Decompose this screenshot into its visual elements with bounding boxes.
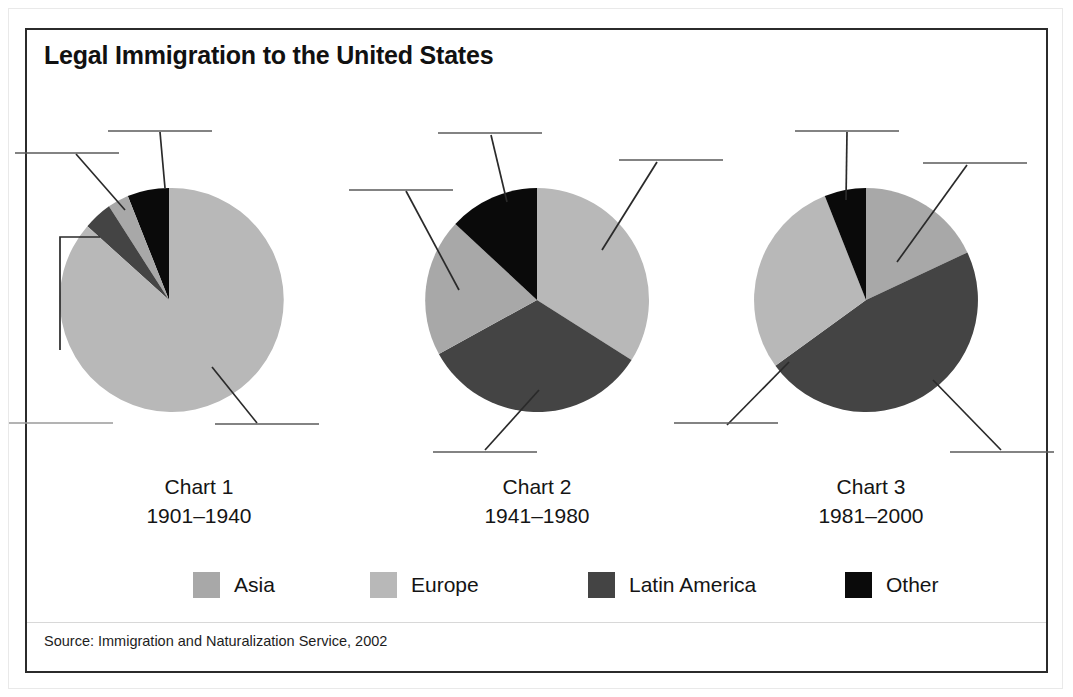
legend-swatch-other — [845, 572, 872, 598]
chart-1-caption-name: Chart 1 — [165, 475, 234, 498]
legend-swatch-asia — [193, 572, 220, 598]
chart-1-leader-other — [160, 132, 165, 188]
source-note: Source: Immigration and Naturalization S… — [44, 633, 387, 649]
chart-3-pie — [701, 110, 1041, 470]
chart-1-block — [29, 110, 369, 470]
chart-3-leader-other — [846, 132, 847, 200]
legend-item-other: Other — [845, 570, 939, 600]
chart-2-leader-other — [491, 135, 507, 202]
chart-3-leader-latin — [933, 380, 1001, 450]
source-divider — [27, 622, 1046, 623]
chart-2-leader-europe — [602, 162, 657, 250]
legend-item-europe: Europe — [370, 570, 479, 600]
chart-3-caption: Chart 3 1981–2000 — [701, 472, 1041, 530]
legend-swatch-latin-america — [588, 572, 615, 598]
chart-3-leader-europe — [727, 362, 789, 425]
chart-2-caption-name: Chart 2 — [503, 475, 572, 498]
charts-row — [25, 110, 1048, 470]
legend-label-asia: Asia — [234, 573, 275, 597]
chart-1-pie — [29, 110, 369, 470]
chart-1-caption: Chart 1 1901–1940 — [29, 472, 369, 530]
legend-swatch-europe — [370, 572, 397, 598]
legend-item-asia: Asia — [193, 570, 275, 600]
chart-3-caption-years: 1981–2000 — [701, 501, 1041, 530]
legend-label-other: Other — [886, 573, 939, 597]
legend-label-latin-america: Latin America — [629, 573, 756, 597]
legend-label-europe: Europe — [411, 573, 479, 597]
legend-item-latin-america: Latin America — [588, 570, 756, 600]
legend: Asia Europe Latin America Other — [25, 570, 1048, 604]
chart-1-leader-asia — [76, 154, 125, 210]
chart-3-caption-name: Chart 3 — [837, 475, 906, 498]
figure-title: Legal Immigration to the United States — [44, 41, 493, 70]
chart-2-caption-years: 1941–1980 — [367, 501, 707, 530]
chart-2-block — [367, 110, 707, 470]
chart-1-caption-years: 1901–1940 — [29, 501, 369, 530]
chart-2-caption: Chart 2 1941–1980 — [367, 472, 707, 530]
chart-2-pie — [367, 110, 707, 470]
captions-row: Chart 1 1901–1940 Chart 2 1941–1980 Char… — [25, 472, 1048, 534]
chart-3-block — [701, 110, 1041, 470]
